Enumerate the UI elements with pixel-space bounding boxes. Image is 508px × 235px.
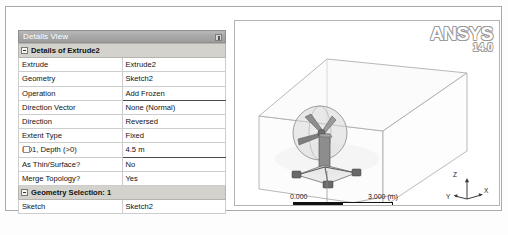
property-label-text: FD1, Depth (>0) (22, 145, 77, 154)
pin-icon[interactable] (215, 34, 222, 41)
table-group-header-selection[interactable]: Geometry Selection: 1 (19, 185, 226, 199)
table-row[interactable]: Geometry Sketch2 (19, 72, 226, 86)
table-row[interactable]: Direction Vector None (Normal) (19, 100, 226, 114)
property-label: Extent Type (19, 129, 123, 143)
scale-bar-filled-half (294, 203, 343, 206)
group-header-label: Geometry Selection: 1 (31, 188, 111, 197)
group-header-cell[interactable]: Details of Extrude2 (19, 44, 226, 58)
details-view-title: Details View (23, 31, 68, 42)
property-label: As Thin/Surface? (19, 157, 123, 171)
table-row[interactable]: Merge Topology? Yes (19, 171, 226, 185)
property-value[interactable]: Fixed (122, 129, 226, 143)
property-label-depth: FD1, Depth (>0) (19, 143, 123, 157)
axis-label-y: Y (446, 193, 450, 200)
property-label: Merge Topology? (19, 171, 123, 185)
scale-bar (293, 202, 393, 206)
details-view-panel: Details View Details of Extrude2 Extrude… (18, 30, 226, 202)
table-row[interactable]: As Thin/Surface? No (19, 157, 226, 171)
property-label: Operation (19, 86, 123, 100)
ansys-logo: ANSYS 14.0 (430, 24, 493, 53)
property-value[interactable]: Reversed (122, 114, 226, 128)
property-label: Direction Vector (19, 100, 123, 114)
table-row[interactable]: Extent Type Fixed (19, 129, 226, 143)
details-view-titlebar[interactable]: Details View (18, 30, 226, 43)
axis-label-z: Z (453, 171, 457, 178)
parameter-checkbox[interactable] (23, 146, 30, 153)
scale-max-label: 3.000 (m) (368, 193, 398, 200)
property-value[interactable]: No (122, 157, 226, 171)
property-value[interactable]: Yes (122, 171, 226, 185)
graphics-viewport[interactable]: ANSYS 14.0 0.000 3.000 (m) 1.500 (234, 20, 500, 206)
property-value[interactable]: Extrude2 (122, 58, 226, 72)
table-row[interactable]: FD1, Depth (>0) 4.5 m (19, 143, 226, 157)
details-properties-table: Details of Extrude2 Extrude Extrude2 Geo… (18, 43, 226, 214)
application-frame: Details View Details of Extrude2 Extrude… (5, 6, 502, 211)
property-value[interactable]: None (Normal) (122, 100, 226, 114)
collapse-icon[interactable] (21, 189, 28, 196)
property-value[interactable]: 4.5 m (122, 143, 226, 157)
table-row[interactable]: Sketch Sketch2 (19, 200, 226, 214)
group-header-cell[interactable]: Geometry Selection: 1 (19, 185, 226, 199)
table-row[interactable]: Direction Reversed (19, 114, 226, 128)
table-row[interactable]: Extrude Extrude2 (19, 58, 226, 72)
collapse-icon[interactable] (21, 47, 28, 54)
property-label: Direction (19, 114, 123, 128)
property-label: Sketch (19, 200, 123, 214)
table-group-header-extrude[interactable]: Details of Extrude2 (19, 44, 226, 58)
property-value[interactable]: Sketch2 (122, 200, 226, 214)
table-row[interactable]: Operation Add Frozen (19, 86, 226, 100)
property-label: Geometry (19, 72, 123, 86)
group-header-label: Details of Extrude2 (31, 46, 100, 55)
property-label: Extrude (19, 58, 123, 72)
ansys-designmodeler-screenshot: Details View Details of Extrude2 Extrude… (0, 0, 508, 235)
property-value[interactable]: Add Frozen (122, 86, 226, 100)
property-value[interactable]: Sketch2 (122, 72, 226, 86)
axis-label-x: X (484, 187, 488, 194)
scale-min-label: 0.000 (290, 193, 308, 200)
